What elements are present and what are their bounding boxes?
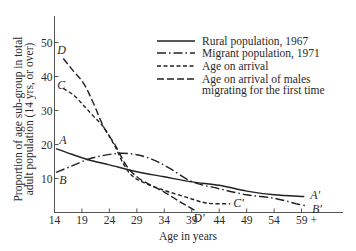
series-line-2 [63,88,230,203]
x-tick-label: 54 [268,214,280,226]
curve-start-label: D [56,43,66,57]
curve-end-label: B' [312,202,322,216]
curve-end-label: D' [192,211,205,225]
series-line-0 [56,149,304,197]
x-tick-label: 49 [241,214,253,226]
x-axis-ticks: 14192429343944495459 + [49,209,317,226]
series-line-3 [63,59,197,212]
y-axis-ticks: 1020304050 [41,37,59,185]
x-tick-label: 24 [104,214,116,226]
line-chart: 1020304050 14192429343944495459 + Propor… [0,0,356,251]
x-tick-label: 29 [131,214,143,226]
curve-start-label: C [57,78,66,92]
legend: Rural population, 1967Migrant population… [157,35,325,97]
x-axis-title: Age in years [159,230,218,243]
y-tick-label: 10 [41,173,53,185]
legend-label: Age on arrival [202,60,268,73]
y-tick-label: 50 [41,37,53,49]
y-tick-label: 30 [41,105,53,117]
y-tick-label: 40 [41,71,53,83]
y-axis-title-line2: adult population (14 yrs, or over) [23,43,36,196]
curve-end-label: A' [309,188,320,202]
curve-labels: AA'BB'CC'DD' [56,43,322,224]
x-tick-label: 34 [159,214,171,226]
curve-end-label: C' [233,196,244,210]
x-tick-label: 14 [49,214,61,226]
curve-start-label: B [59,173,67,187]
x-tick-label: 19 [76,214,88,226]
y-tick-label: 20 [41,139,53,151]
legend-label-line2: migrating for the first time [202,84,325,97]
x-tick-label: 44 [213,214,225,226]
curve-start-label: A [58,133,67,147]
legend-label: Migrant population, 1971 [202,47,320,60]
